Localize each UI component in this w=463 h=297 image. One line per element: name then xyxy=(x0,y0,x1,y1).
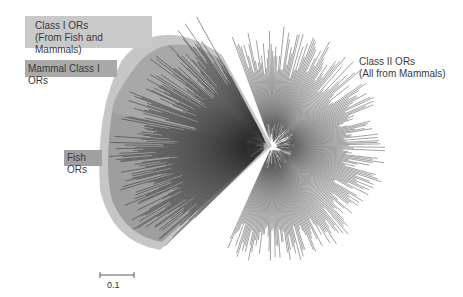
scale-bar xyxy=(100,272,134,278)
mammal-class1-ors-label: Mammal Class I ORs xyxy=(25,60,117,77)
class2-ors-label: Class II ORs (All from Mammals) xyxy=(359,56,446,80)
class1-title: Class I ORs xyxy=(35,20,152,32)
class1-ors-label: Class I ORs (From Fish and Mammals) xyxy=(25,16,152,48)
class2-subtitle: (All from Mammals) xyxy=(359,68,446,80)
class1-subtitle: (From Fish and Mammals) xyxy=(35,32,152,56)
fish-ors-label: Fish ORs xyxy=(64,150,102,166)
scale-bar-label: 0.1 xyxy=(107,280,120,290)
class2-title: Class II ORs xyxy=(359,56,446,68)
